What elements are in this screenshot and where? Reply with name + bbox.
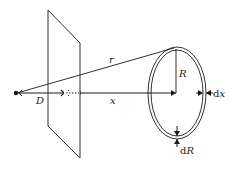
label-D: D	[35, 95, 44, 106]
physics-diagram: D x r R dx dR	[0, 0, 236, 169]
arrowhead-dx-left	[198, 90, 203, 96]
label-x: x	[110, 95, 116, 106]
arrowhead-dR-top	[174, 131, 180, 136]
arrowhead-x-right	[171, 90, 176, 96]
label-R: R	[178, 68, 187, 79]
label-r: r	[109, 54, 115, 65]
point-source	[14, 91, 18, 95]
arrowhead-dx-right	[206, 90, 211, 96]
label-dx: dx	[213, 88, 225, 99]
plane	[48, 10, 80, 158]
label-dR: dR	[180, 145, 194, 156]
slant-line-r	[17, 48, 174, 93]
arrowhead-dR-bottom	[174, 139, 180, 144]
